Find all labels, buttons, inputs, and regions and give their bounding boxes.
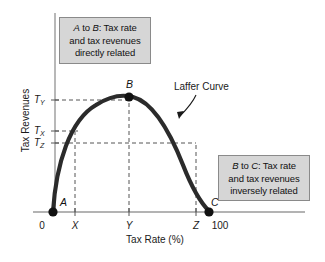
point-label-b: B — [126, 78, 133, 90]
y-tick-sub-tz: Z — [40, 142, 44, 149]
x-tick-label-100: 100 — [208, 220, 232, 231]
callout-bc-line3: inversely related — [219, 185, 309, 198]
point-label-a: A — [60, 196, 67, 208]
x-tick-label-x: X — [69, 220, 81, 231]
callout-bc-tail: : Tax rate — [258, 160, 296, 171]
y-tick-sub-tx: X — [40, 130, 45, 137]
y-tick-label-tz: TZ — [34, 137, 44, 149]
laffer-curve-figure: Tax Revenues Tax Rate (%) TY TX TZ 0 X Y… — [0, 0, 325, 262]
callout-bc-line1: B to C: Tax rate — [219, 160, 309, 173]
callout-ab-connector: to — [80, 22, 93, 33]
callout-ab-tail: : Tax rate — [99, 22, 137, 33]
callout-a-to-b: A to B: Tax rate and tax revenues direct… — [59, 17, 151, 64]
callout-ab-line1: A to B: Tax rate — [60, 22, 150, 35]
plot-area — [0, 0, 325, 262]
laffer-curve-path — [53, 96, 209, 212]
callout-ab-line2: and tax revenues — [60, 35, 150, 48]
y-tick-label-tx: TX — [34, 125, 45, 137]
curve-label: Laffer Curve — [174, 81, 229, 92]
point-marker-b — [124, 92, 133, 101]
x-tick-label-y: Y — [123, 220, 135, 231]
y-axis-title: Tax Revenues — [20, 79, 31, 163]
callout-ab-line3: directly related — [60, 47, 150, 60]
y-tick-label-ty: TY — [34, 94, 45, 106]
point-marker-a — [48, 207, 57, 216]
callout-bc-to: C — [251, 160, 258, 171]
y-tick-sub-ty: Y — [40, 99, 45, 106]
callout-b-to-c: B to C: Tax rate and tax revenues invers… — [218, 155, 310, 201]
point-marker-c — [204, 207, 213, 216]
callout-bc-connector: to — [238, 160, 251, 171]
curve-label-arrowhead — [177, 111, 184, 119]
x-tick-label-z: Z — [190, 220, 202, 231]
callout-bc-line2: and tax revenues — [219, 173, 309, 186]
x-tick-label-0: 0 — [36, 220, 48, 231]
x-axis-title: Tax Rate (%) — [95, 234, 215, 245]
